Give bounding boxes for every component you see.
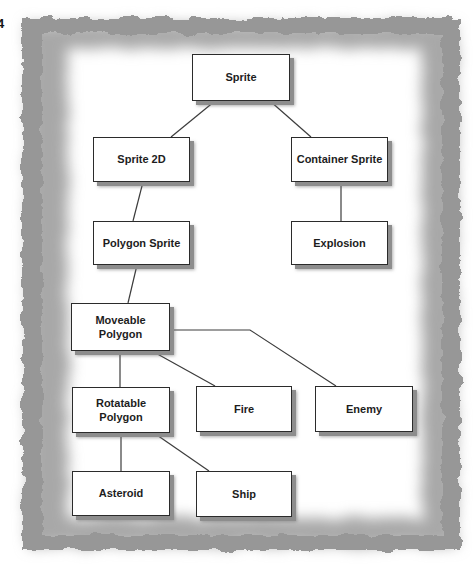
node-enemy: Enemy [315, 386, 413, 432]
node-asteroid: Asteroid [72, 471, 170, 516]
node-polygon-sprite-label: Polygon Sprite [103, 236, 181, 250]
node-moveable-polygon-label: Moveable Polygon [92, 313, 149, 342]
node-sprite-2d-label: Sprite 2D [117, 152, 165, 166]
node-explosion-label: Explosion [313, 236, 366, 250]
edge-polygonsprite-moveable [128, 265, 137, 303]
node-container-sprite-label: Container Sprite [297, 152, 383, 166]
edge-rotatable-ship [154, 433, 209, 471]
node-sprite-2d: Sprite 2D [93, 137, 190, 182]
node-fire-label: Fire [234, 402, 254, 416]
scanned-page: 4 Sprite Sprite 2D Container Sprite Poly… [0, 0, 476, 570]
node-ship: Ship [196, 471, 292, 517]
node-explosion: Explosion [291, 221, 388, 265]
edge-sprite-sprite2d [171, 101, 215, 137]
page-number: 4 [0, 16, 4, 31]
node-rotatable-polygon: Rotatable Polygon [72, 387, 170, 433]
node-container-sprite: Container Sprite [291, 137, 388, 182]
node-ship-label: Ship [232, 487, 256, 501]
node-rotatable-polygon-label: Rotatable Polygon [93, 396, 149, 425]
edge-sprite-containersprite [270, 101, 311, 137]
edge-moveable-enemy [170, 330, 336, 386]
node-polygon-sprite: Polygon Sprite [93, 221, 190, 265]
edge-moveable-fire [152, 351, 215, 386]
node-sprite-label: Sprite [225, 70, 256, 84]
node-fire: Fire [196, 386, 292, 432]
node-asteroid-label: Asteroid [99, 486, 144, 500]
node-enemy-label: Enemy [346, 402, 382, 416]
edge-sprite2d-polygonsprite [133, 182, 143, 221]
node-sprite: Sprite [192, 54, 290, 101]
node-moveable-polygon: Moveable Polygon [71, 303, 170, 351]
